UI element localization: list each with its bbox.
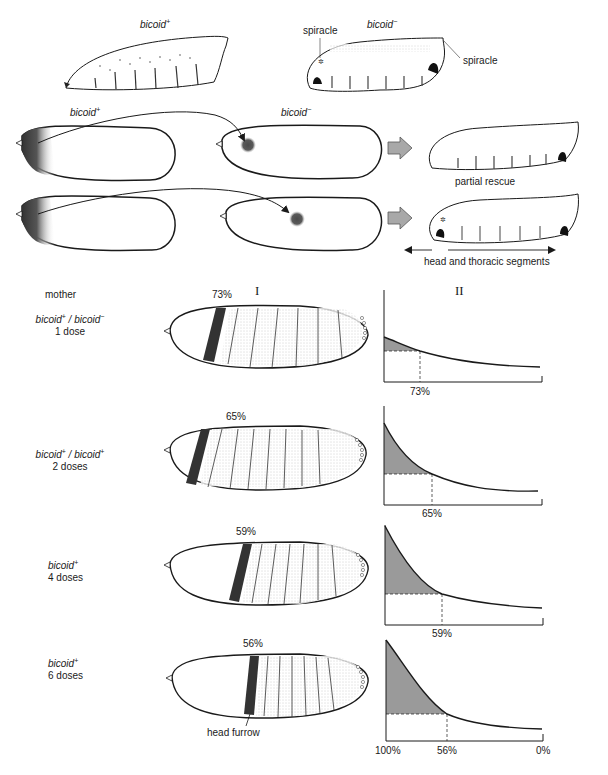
egg-dose-3 [164,542,368,605]
svg-text:✲: ✲ [440,216,446,223]
result-arrow-2 [388,207,412,229]
gradient-chart-4doses [385,525,543,625]
pole-cells [355,316,366,688]
label-partial-rescue: partial rescue [455,176,515,188]
header-mother: mother [45,289,76,301]
genotype-row-2: bicoid+ / bicoid+ 2 doses [25,449,115,473]
label-recipient-bicoid-minus: bicoid− [281,107,311,119]
chart-threshold-label-4doses: 59% [432,628,452,640]
furrow-position-4doses: 59% [236,526,256,538]
svg-text:✲: ✲ [318,58,324,65]
label-spiracle-left: spiracle [303,25,337,37]
egg-donor-1 [16,126,175,181]
egg-dose-4 [166,654,368,726]
larva-head-thoracic-rescue: ✲ [430,194,579,243]
dose-count: 6 doses [48,670,83,682]
dose-count: 4 doses [48,572,83,584]
gradient-chart-1dose [384,290,542,382]
furrow-position-6doses: 56% [243,638,263,650]
egg-dose-2 [164,426,366,490]
axis-tick-100: 100% [375,745,401,757]
larva-bicoid-plus [64,36,228,89]
bicoid-injection-spot-2 [289,211,305,227]
egg-dose-1 [164,305,368,368]
label-bicoid-minus-larva: bicoid− [367,19,397,31]
bicoid-injection-spot-1 [240,137,256,153]
label-head-furrow: head furrow [207,727,260,739]
chart-threshold-label-2doses: 65% [422,508,442,520]
axis-tick-56: 56% [437,745,457,757]
axis-tick-0: 0% [536,745,550,757]
dose-count: 1 dose [25,326,115,338]
chart-threshold-label-1dose: 73% [410,386,430,398]
larva-bicoid-minus: ✲ [307,38,460,91]
egg-donor-2 [16,196,175,251]
spiracle-pointer-right [443,40,460,58]
label-head-thoracic-segments: head and thoracic segments [424,256,550,268]
furrow-position-1dose: 73% [212,289,232,301]
larva-partial-rescue [429,122,578,170]
egg-recipient-2 [220,197,382,250]
label-bicoid-plus-larva: bicoid+ [140,19,170,31]
gradient-chart-6doses [386,640,543,741]
segments-span-arrow [404,246,556,254]
result-arrow-1 [388,137,412,159]
label-donor-bicoid-plus: bicoid+ [70,107,100,119]
genotype-row-1: bicoid+ / bicoid− 1 dose [25,314,115,338]
genotype-row-4: bicoid+ 6 doses [48,658,83,682]
label-spiracle-right: spiracle [463,55,497,67]
furrow-position-2doses: 65% [226,411,246,423]
gradient-chart-2doses [384,406,542,505]
egg-recipient-1 [216,125,382,179]
header-panel-I: I [255,283,259,299]
dose-count: 2 doses [25,461,115,473]
header-panel-II: II [455,283,464,299]
genotype-row-3: bicoid+ 4 doses [48,560,83,584]
